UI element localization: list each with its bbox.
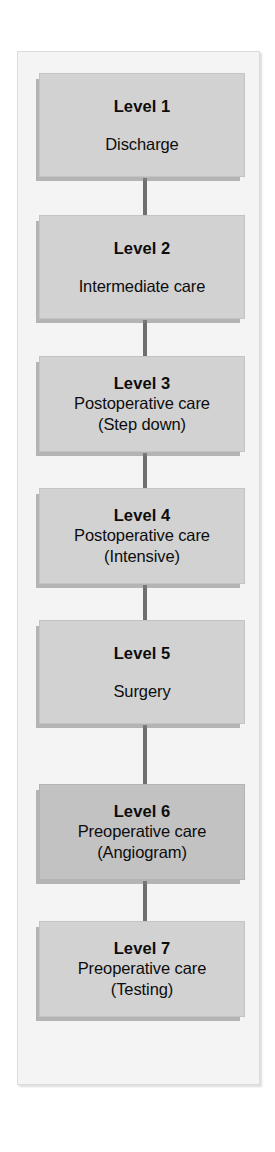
node-line: Preoperative care (78, 821, 207, 842)
flowchart: Level 1DischargeLevel 2Intermediate care… (0, 0, 275, 1152)
connector-level-1-to-level-2 (143, 178, 147, 215)
node-title: Level 1 (114, 96, 171, 116)
node-level-7[interactable]: Level 7Preoperative care(Testing) (39, 921, 245, 1017)
node-title: Level 3 (114, 373, 171, 393)
connector-level-6-to-level-7 (143, 881, 147, 921)
node-level-2[interactable]: Level 2Intermediate care (39, 215, 245, 319)
connector-level-5-to-level-6 (143, 725, 147, 784)
node-line: (Intensive) (104, 546, 180, 567)
node-line: Postoperative care (74, 393, 210, 414)
node-level-3[interactable]: Level 3Postoperative care(Step down) (39, 356, 245, 452)
node-level-6[interactable]: Level 6Preoperative care(Angiogram) (39, 784, 245, 880)
node-line: Surgery (113, 681, 170, 702)
node-level-5[interactable]: Level 5Surgery (39, 620, 245, 724)
node-line: Postoperative care (74, 525, 210, 546)
node-title: Level 6 (114, 801, 171, 821)
node-line: (Angiogram) (97, 842, 187, 863)
node-title: Level 4 (114, 505, 171, 525)
node-title: Level 2 (114, 238, 171, 258)
connector-level-4-to-level-5 (143, 585, 147, 620)
node-line: (Testing) (111, 979, 173, 1000)
connector-level-2-to-level-3 (143, 320, 147, 356)
node-level-1[interactable]: Level 1Discharge (39, 73, 245, 177)
connector-level-3-to-level-4 (143, 453, 147, 488)
node-level-4[interactable]: Level 4Postoperative care(Intensive) (39, 488, 245, 584)
node-line: Intermediate care (79, 276, 206, 297)
node-line: Preoperative care (78, 958, 207, 979)
diagram-canvas: Level 1DischargeLevel 2Intermediate care… (0, 0, 275, 1152)
node-title: Level 5 (114, 643, 171, 663)
node-title: Level 7 (114, 938, 171, 958)
node-line: Discharge (105, 134, 178, 155)
node-line: (Step down) (98, 414, 186, 435)
